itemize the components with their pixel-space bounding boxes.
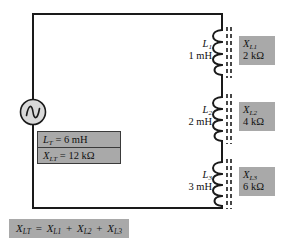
inductor-coil-3 <box>213 162 222 206</box>
inductor-coil-2 <box>213 97 222 141</box>
inductor-label-3: L3 3 mH <box>178 169 212 193</box>
formula-term-1: XL1 <box>47 222 62 234</box>
total-inductance-row: LT = 6 mH <box>38 132 120 148</box>
inductor-label-2: L2 2 mH <box>178 104 212 128</box>
reactance-1-symbol: XL1 <box>243 38 257 49</box>
inductor-label-1: L1 1 mH <box>178 38 212 62</box>
total-reactance-formula: XLT = XL1 + XL2 + XL3 <box>9 219 129 238</box>
total-values-box: LT = 6 mH XLT = 12 kΩ <box>37 131 121 164</box>
core-lines-1 <box>227 27 231 78</box>
reactance-2-symbol: XL2 <box>243 104 257 115</box>
reactance-3-symbol: XL3 <box>243 169 257 180</box>
reactance-chip-2: XL2 4 kΩ <box>239 102 275 131</box>
inductor-3-value: 3 mH <box>178 181 212 193</box>
circuit-diagram: L1 1 mH L2 2 mH L3 3 mH XL1 2 kΩ XL2 4 k… <box>0 0 283 242</box>
core-lines-3 <box>227 159 231 209</box>
reactance-2-value: 4 kΩ <box>243 116 271 128</box>
inductor-1-value: 1 mH <box>178 50 212 62</box>
formula-equals: = <box>34 222 44 234</box>
total-inductance-equation: = 6 mH <box>55 134 87 145</box>
formula-term-3: XL3 <box>107 222 122 234</box>
reactance-1-value: 2 kΩ <box>243 50 271 62</box>
total-reactance-equation: = 12 kΩ <box>60 150 95 161</box>
formula-lhs: XLT <box>16 222 31 234</box>
formula-plus-1: + <box>64 222 74 234</box>
core-lines-2 <box>227 94 231 144</box>
inductor-coil-1 <box>213 30 222 75</box>
ac-source-symbol <box>21 100 46 125</box>
formula-plus-2: + <box>94 222 104 234</box>
formula-term-2: XL2 <box>77 222 92 234</box>
total-inductance-symbol: LT <box>43 134 53 145</box>
inductor-2-designator: L2 <box>203 104 212 115</box>
inductor-2-value: 2 mH <box>178 116 212 128</box>
inductor-3-designator: L3 <box>203 169 212 180</box>
reactance-chip-3: XL3 6 kΩ <box>239 167 275 196</box>
reactance-3-value: 6 kΩ <box>243 181 271 193</box>
reactance-chip-1: XL1 2 kΩ <box>239 36 275 65</box>
inductor-1-designator: L1 <box>203 38 212 49</box>
total-reactance-row: XLT = 12 kΩ <box>38 148 120 163</box>
total-reactance-symbol: XLT <box>43 150 57 161</box>
